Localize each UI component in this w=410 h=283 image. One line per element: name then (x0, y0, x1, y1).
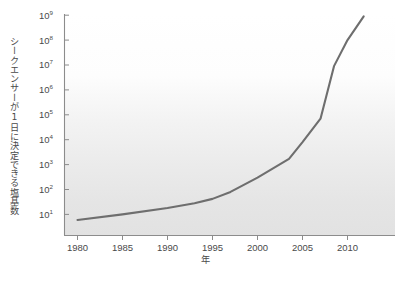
y-tick-labels: 109 108 107 106 105 104 103 102 101 (39, 9, 54, 220)
y-tick-label: 102 (39, 183, 54, 195)
y-tick-exponent: 4 (50, 133, 54, 140)
y-tick-exponent: 8 (50, 34, 54, 41)
y-tick-label: 103 (39, 158, 54, 170)
y-tick-exponent: 6 (50, 83, 54, 90)
y-tick-label: 106 (39, 83, 54, 95)
y-tick-label: 108 (39, 34, 54, 46)
x-axis-ticks (78, 236, 348, 241)
y-tick-exponent: 5 (50, 108, 54, 115)
y-tick-label: 105 (39, 108, 54, 120)
y-tick-label: 101 (39, 208, 54, 220)
y-tick-exponent: 3 (50, 158, 54, 165)
y-axis-title: シークエンサーが1日に決定できる塩基数 (6, 12, 22, 240)
plot-background (64, 14, 395, 235)
y-tick-exponent: 9 (50, 9, 54, 16)
figure-container: 109 108 107 106 105 104 103 102 101 1980… (0, 0, 410, 283)
y-tick-exponent: 1 (50, 208, 54, 215)
y-tick-label: 109 (39, 9, 54, 21)
y-tick-exponent: 2 (50, 183, 54, 190)
y-tick-label: 107 (39, 58, 54, 70)
y-tick-label: 104 (39, 133, 54, 145)
y-tick-exponent: 7 (50, 58, 54, 65)
x-axis-title: 年 (0, 252, 410, 266)
line-chart: 109 108 107 106 105 104 103 102 101 1980… (0, 0, 410, 283)
